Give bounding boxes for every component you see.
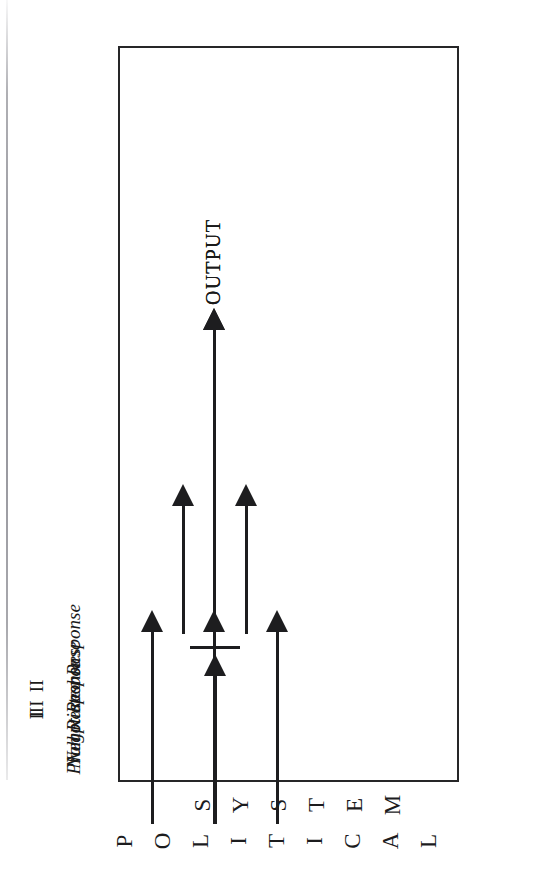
- page-edge-artifact: [6, 0, 8, 780]
- political-system-box: [118, 46, 459, 782]
- stage-2-intermediate-line-1: [182, 503, 185, 634]
- stage-3-through-line: [213, 325, 216, 824]
- stage-2-input-line-3: [276, 629, 279, 824]
- caption-letter-political-1: O: [150, 828, 176, 854]
- caption-letter-political-0: P: [112, 828, 138, 854]
- stage-2-intermediate-line-2: [245, 503, 248, 634]
- caption-letter-system-5: M: [380, 792, 406, 818]
- stage-2-intermediate-arrowhead-2: [235, 484, 257, 506]
- stage-2-input-line-1: [151, 629, 154, 824]
- caption-letter-political-4: T: [264, 828, 290, 854]
- figure-container: I Null Response II Negotiated Response O…: [118, 22, 463, 782]
- stage-2-input-arrowhead-1: [141, 610, 163, 632]
- figure-rotated-stage: I Null Response II Negotiated Response O…: [118, 22, 463, 782]
- stage-3-roman-numeral: III: [26, 680, 48, 740]
- caption-letter-political-8: L: [416, 828, 442, 854]
- stage-3-output-arrowhead: [203, 308, 225, 330]
- caption-letter-system-2: S: [266, 792, 292, 818]
- caption-letter-political-7: A: [378, 828, 404, 854]
- caption-letter-political-3: I: [226, 828, 252, 854]
- caption-letter-system-3: T: [304, 792, 330, 818]
- caption-letter-system-4: E: [342, 792, 368, 818]
- caption-letter-political-2: L: [188, 828, 214, 854]
- stage-2-input-arrowhead-3: [266, 610, 288, 632]
- caption-letter-system-1: Y: [228, 792, 254, 818]
- caption-letter-political-5: I: [302, 828, 328, 854]
- stage-3-output-label: OUTPUT: [202, 219, 225, 305]
- caption-letter-political-6: C: [340, 828, 366, 854]
- stage-3-caption: Prompt Response: [63, 632, 85, 784]
- stage-2-intermediate-arrowhead-1: [172, 484, 194, 506]
